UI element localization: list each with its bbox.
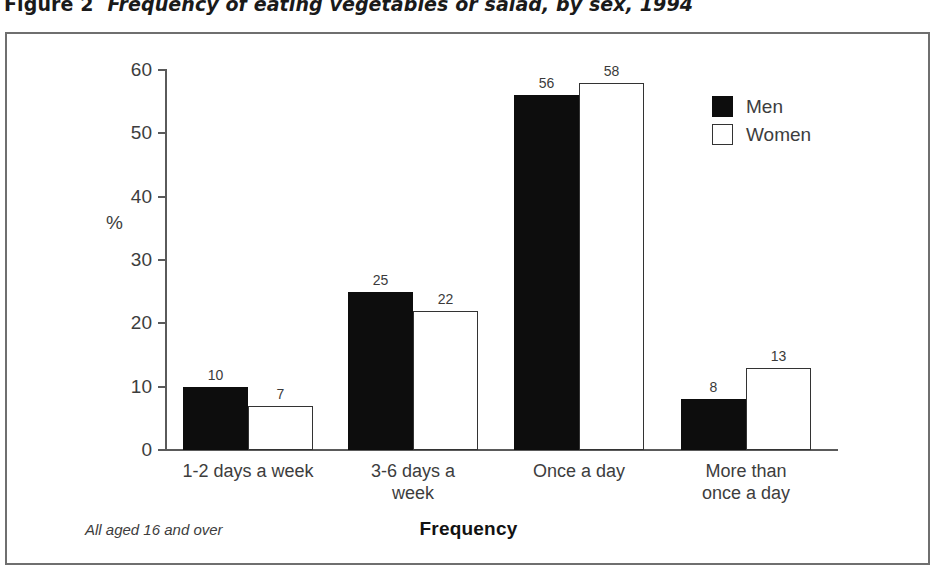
y-axis-tick-label: 10 [104,377,152,396]
bar-men-3 [514,95,579,450]
y-axis-tick-label: 0 [104,440,152,459]
y-axis-tick-mark [158,259,167,261]
legend-swatch-icon [712,124,733,145]
bar-women-4 [746,368,811,450]
y-axis-unit-label: % [106,212,123,234]
bar-value-label: 56 [514,76,579,90]
y-axis-tick-mark [158,196,167,198]
y-axis-tick-label: 20 [104,313,152,332]
y-axis-tick-mark [158,386,167,388]
legend-item-men: Men [712,96,811,117]
y-axis-tick-mark [158,132,167,134]
bar-value-label: 10 [183,368,248,382]
y-axis-tick-mark [158,449,167,451]
bar-value-label: 7 [248,387,313,401]
y-axis-tick-label: 50 [104,123,152,142]
x-axis-title: Frequency [0,518,937,540]
bar-value-label: 58 [579,64,644,78]
bar-men-1 [183,387,248,450]
y-axis-tick-mark [158,69,167,71]
y-axis-tick-label: 40 [104,187,152,206]
y-axis-tick-label: 60 [104,60,152,79]
x-axis-category-label: More than once a day [636,461,856,505]
legend-label: Men [746,97,783,116]
chart-legend: MenWomen [712,96,811,152]
y-axis-tick-mark [158,322,167,324]
bar-women-3 [579,83,644,450]
chart-plot-area: 0102030405060 % 10725225658813 1-2 days … [0,0,937,571]
y-axis-tick-label: 30 [104,250,152,269]
legend-swatch-icon [712,96,733,117]
legend-item-women: Women [712,124,811,145]
bar-value-label: 13 [746,349,811,363]
bar-value-label: 8 [681,380,746,394]
legend-label: Women [746,125,811,144]
bar-men-2 [348,292,413,450]
bar-men-4 [681,399,746,450]
bar-women-1 [248,406,313,450]
bar-value-label: 22 [413,292,478,306]
bar-value-label: 25 [348,273,413,287]
bar-women-2 [413,311,478,450]
